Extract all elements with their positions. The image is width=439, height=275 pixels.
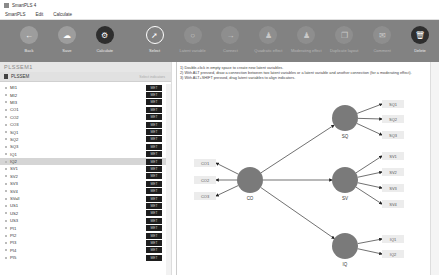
indicator-label: SQ2 [389, 117, 398, 122]
path-arrow[interactable] [216, 186, 238, 196]
latent-variable-co[interactable]: CO [237, 167, 263, 201]
latent-variable-label: IQ [343, 262, 348, 267]
indicator-label: SV2 [389, 170, 397, 175]
indicator-label: CO1 [201, 161, 210, 166]
path-arrow[interactable] [358, 183, 382, 188]
indicator-box[interactable]: SQ2 [382, 115, 404, 123]
path-arrow[interactable] [357, 104, 382, 113]
indicator-box[interactable]: IQ2 [382, 250, 404, 258]
path-arrow[interactable] [261, 125, 334, 173]
latent-variable-sq[interactable]: SQ [332, 105, 358, 139]
path-arrow[interactable] [216, 163, 238, 174]
path-arrow[interactable] [356, 187, 382, 204]
indicator-box[interactable]: SV3 [382, 184, 404, 192]
indicator-label: SQ3 [389, 133, 398, 138]
indicator-label: CO3 [201, 194, 210, 199]
path-arrow[interactable] [358, 118, 382, 119]
indicator-label: SQ1 [389, 102, 398, 107]
path-arrow[interactable] [358, 239, 382, 244]
path-arrow[interactable] [356, 156, 382, 173]
path-arrow[interactable] [357, 123, 382, 135]
indicator-box[interactable]: SV1 [382, 152, 404, 160]
indicator-box[interactable]: CO1 [194, 159, 216, 167]
path-arrow[interactable] [358, 172, 382, 177]
indicator-label: SV3 [389, 186, 397, 191]
indicator-box[interactable]: IQ1 [382, 235, 404, 243]
path-diagram: CO1CO2CO3SQ1SQ2SQ3SV1SV2SV3SV4IQ1IQ2COSQ… [0, 0, 439, 275]
indicator-label: CO2 [201, 178, 210, 183]
indicator-label: IQ2 [390, 252, 397, 257]
indicator-box[interactable]: SV4 [382, 200, 404, 208]
indicator-label: SV1 [389, 154, 397, 159]
indicator-box[interactable]: CO2 [194, 176, 216, 184]
indicator-label: SV4 [389, 202, 397, 207]
indicator-box[interactable]: SQ3 [382, 131, 404, 139]
latent-variable-sv[interactable]: SV [332, 167, 358, 201]
latent-variable-label: SV [342, 196, 348, 201]
indicator-box[interactable]: CO3 [194, 192, 216, 200]
path-arrow[interactable] [358, 249, 382, 254]
indicator-label: IQ1 [390, 237, 397, 242]
latent-variable-iq[interactable]: IQ [332, 233, 358, 267]
latent-variable-label: CO [247, 196, 254, 201]
indicator-box[interactable]: SV2 [382, 168, 404, 176]
latent-variable-label: SQ [342, 134, 349, 139]
path-arrow[interactable] [261, 187, 335, 238]
indicator-box[interactable]: SQ1 [382, 100, 404, 108]
